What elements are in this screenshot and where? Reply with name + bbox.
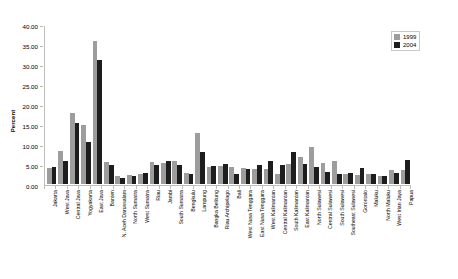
legend-item: 2004 [394,42,416,48]
bar-group [194,26,205,184]
x-label-cell: Bali [228,190,239,278]
bar-group [114,26,125,184]
bar-group [92,26,103,184]
bar-group [274,26,285,184]
x-label-cell: Southeast Sulawesi [342,190,353,278]
y-tick-label: 25.00 [23,83,38,90]
bar-group [171,26,182,184]
bar-group [365,26,376,184]
bar-2004 [166,161,171,184]
x-label-cell: Central Kalimantan [273,190,284,278]
x-label-cell: Jakarta [44,190,55,278]
bar-group [137,26,148,184]
x-label-cell: East Kalimantan [296,190,307,278]
x-tick-mark [170,186,181,189]
bar-2004 [268,161,273,184]
bar-2004 [86,142,91,184]
x-label-cell: North Sumatra [124,190,135,278]
bar-chart: Percent 0.005.0010.0015.0020.0025.0030.0… [0,0,458,279]
x-label-cell: South Sulawesi [331,190,342,278]
bar-2004 [325,172,330,184]
x-tick-mark [388,186,399,189]
x-label-cell: Bengkulu [182,190,193,278]
bar-2004 [120,178,125,184]
y-axis-ticks: 0.005.0010.0015.0020.0025.0030.0035.0040… [0,0,44,279]
bar-group [149,26,160,184]
x-tick-mark [228,186,239,189]
legend-label: 1999 [403,34,416,40]
x-label-cell: Banten [101,190,112,278]
bar-2004 [348,173,353,184]
y-tick-label: 40.00 [23,23,38,30]
x-label-cell: Maluku [365,190,376,278]
bar-2004 [257,165,262,184]
y-tick-mark [40,126,43,127]
x-label-cell: West Nusa Tenggara [239,190,250,278]
bar-group [103,26,114,184]
x-tick-mark [354,186,365,189]
x-label-cell: West Sumatra [136,190,147,278]
x-label-cell: West Java [55,190,66,278]
y-tick-label: 30.00 [23,63,38,70]
x-label-cell: Central Java [67,190,78,278]
y-tick-mark [40,166,43,167]
bar-2004 [177,165,182,184]
y-tick-mark [40,26,43,27]
x-label-cell: Riau [147,190,158,278]
x-label-cell: Yogyakarta [78,190,89,278]
bar-2004 [360,168,365,184]
y-tick-mark [40,46,43,47]
bar-group [286,26,297,184]
plot-area [44,26,411,186]
bar-group [240,26,251,184]
x-tick-mark [296,186,307,189]
x-tick-mark [90,186,101,189]
x-label-cell: Lampung [193,190,204,278]
bar-group [69,26,80,184]
x-tick-mark [365,186,376,189]
x-tick-mark [342,186,353,189]
x-label-cell: North Sulawesi [308,190,319,278]
x-tick-mark [377,186,388,189]
bar-group [183,26,194,184]
bar-2004 [405,160,410,184]
x-label-cell: Riau Archipelago [216,190,227,278]
y-tick-mark [40,106,43,107]
x-tick-mark [216,186,227,189]
y-tick-mark [40,146,43,147]
x-tick-mark [262,186,273,189]
x-tick-mark [67,186,78,189]
x-label-cell: Jambi [159,190,170,278]
x-tick-mark [113,186,124,189]
bar-2004 [200,152,205,184]
bar-group [308,26,319,184]
bar-2004 [280,165,285,184]
x-label-cell: South Kalimantan [285,190,296,278]
bar-2004 [143,173,148,184]
bar-group [80,26,91,184]
bar-2004 [132,176,137,184]
x-tick-mark [319,186,330,189]
bar-group [251,26,262,184]
x-label-cell: West Irian Jaya [388,190,399,278]
x-label-cell: N. Aceh Darussalam [113,190,124,278]
legend-label: 2004 [403,42,416,48]
bar-2004 [223,164,228,184]
bar-group [160,26,171,184]
bar-group [126,26,137,184]
x-tick-mark [205,186,216,189]
x-label-cell: Bangka Belitung [205,190,216,278]
x-label-cell: Gorontalo [354,190,365,278]
y-tick-label: 15.00 [23,123,38,130]
bar-2004 [63,161,68,184]
x-tick-mark [400,186,411,189]
bar-2004 [314,167,319,184]
bar-2004 [291,152,296,184]
x-tick-mark [136,186,147,189]
bar-groups [46,26,411,184]
bar-group [297,26,308,184]
x-tick-mark [78,186,89,189]
y-tick-mark [40,66,43,67]
x-tick-mark [273,186,284,189]
bar-group [343,26,354,184]
